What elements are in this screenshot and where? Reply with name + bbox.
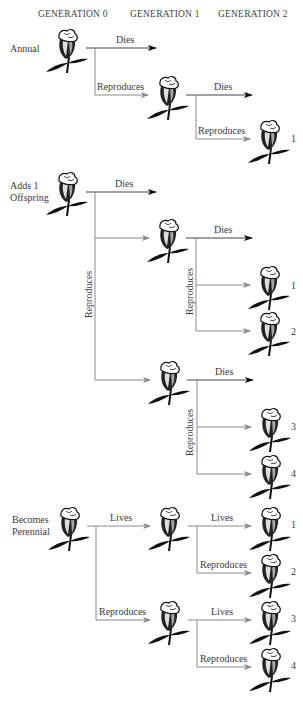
edge-label-dies: Dies <box>215 366 233 377</box>
label-line: Adds 1 <box>10 180 49 192</box>
label-line: Becomes <box>12 514 50 526</box>
offspring-number: 1 <box>291 133 296 144</box>
flower-icon <box>246 310 292 358</box>
flower-icon <box>146 359 192 407</box>
label-annual: Annual <box>10 43 39 55</box>
edge-label-reproduces: Reproduces <box>200 653 247 664</box>
label-becomes-perennial: Becomes Perennial <box>12 514 50 538</box>
offspring-number: 1 <box>291 519 296 530</box>
flower-icon <box>145 217 191 265</box>
offspring-number: 4 <box>291 660 296 671</box>
flower-icon <box>247 505 293 553</box>
flower-icon <box>146 505 192 553</box>
edge-label-dies: Dies <box>115 178 133 189</box>
edge-label-reproduces-vertical: Reproduces <box>184 409 195 456</box>
edge-label-reproduces: Reproduces <box>198 125 245 136</box>
offspring-number: 1 <box>291 280 296 291</box>
edge-label-dies: Dies <box>116 34 134 45</box>
flower-icon <box>247 646 293 694</box>
label-line: Perennial <box>12 526 50 538</box>
flower-icon <box>247 552 293 600</box>
edge-label-reproduces-vertical: Reproduces <box>83 271 94 318</box>
edge-label-dies: Dies <box>214 81 232 92</box>
flower-icon <box>247 599 293 647</box>
offspring-number: 2 <box>291 326 296 337</box>
flower-icon <box>46 505 92 553</box>
edge-label-lives: Lives <box>110 512 132 523</box>
label-adds-1-offspring: Adds 1 Offspring <box>10 180 49 204</box>
flower-icon <box>146 599 192 647</box>
flower-icon <box>246 118 292 166</box>
edge-label-reproduces: Reproduces <box>97 81 144 92</box>
edge-label-reproduces-vertical: Reproduces <box>184 268 195 315</box>
label-line: Offspring <box>10 192 49 204</box>
flower-icon <box>44 27 90 75</box>
offspring-number: 4 <box>291 468 296 479</box>
flower-icon <box>44 170 90 218</box>
offspring-number: 3 <box>291 613 296 624</box>
flower-icon <box>247 453 293 501</box>
edge-label-reproduces: Reproduces <box>200 559 247 570</box>
flower-icon <box>246 264 292 312</box>
edge-label-reproduces: Reproduces <box>99 606 146 617</box>
offspring-number: 3 <box>291 421 296 432</box>
edge-label-dies: Dies <box>214 224 232 235</box>
edge-label-lives: Lives <box>211 606 233 617</box>
flower-icon <box>145 74 191 122</box>
offspring-number: 2 <box>291 566 296 577</box>
edge-label-lives: Lives <box>211 512 233 523</box>
flower-icon <box>247 406 293 454</box>
